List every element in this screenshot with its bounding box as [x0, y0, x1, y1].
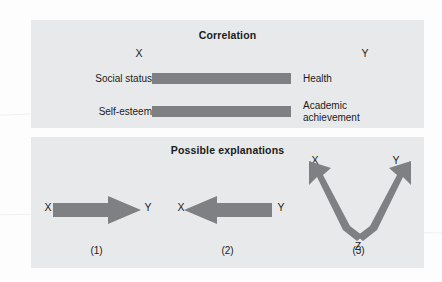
- correlation-panel: Correlation X Y Social status Health Sel…: [31, 20, 424, 128]
- correlation-panel-title: Correlation: [31, 29, 424, 41]
- correlation-row: Self-esteem Academic achievement: [31, 101, 424, 123]
- explanation-cell-3: X Y Z (3): [293, 137, 424, 268]
- row-right-label-line2: achievement: [303, 112, 360, 124]
- explanation-cell-1: X Y (1): [31, 137, 162, 268]
- row-right-label-line1: Academic: [303, 100, 360, 112]
- figure-canvas: Correlation X Y Social status Health Sel…: [0, 0, 442, 282]
- correlation-bar: [152, 73, 291, 84]
- row-right-label: Academic achievement: [303, 100, 360, 124]
- correlation-row: Social status Health: [31, 68, 424, 90]
- node-y-label: Y: [273, 201, 289, 213]
- arrow-y-to-x-icon: [184, 195, 272, 225]
- row-left-label: Social status: [95, 73, 152, 85]
- explanations-panel: Possible explanations X Y (1) X Y (2) X …: [31, 137, 424, 268]
- row-right-label: Health: [303, 73, 332, 85]
- explanation-caption-3: (3): [293, 245, 424, 256]
- explanation-caption-1: (1): [31, 245, 162, 256]
- arrow-x-to-y-icon: [53, 195, 141, 225]
- row-left-label: Self-esteem: [99, 106, 152, 118]
- arrow-z-fork-icon: [301, 155, 419, 247]
- explanation-caption-2: (2): [162, 245, 293, 256]
- scan-streak: [0, 113, 34, 115]
- correlation-bar: [152, 106, 291, 117]
- node-y-label: Y: [140, 201, 156, 213]
- explanation-cell-2: X Y (2): [162, 137, 293, 268]
- variable-x-label: X: [129, 47, 149, 59]
- variable-y-label: Y: [355, 47, 375, 59]
